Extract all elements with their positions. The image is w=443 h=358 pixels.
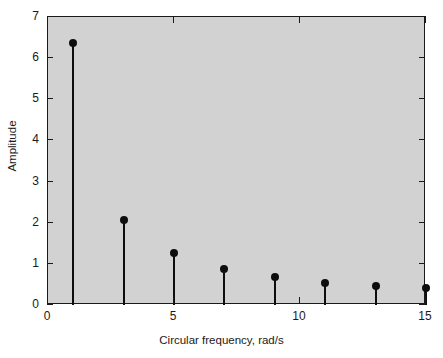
stem-line [274,277,276,305]
y-tick-label: 6 [9,51,39,63]
data-point-marker [69,39,77,47]
y-tick-mark [47,57,53,58]
stem-line [123,220,125,305]
x-tick-mark [173,297,174,304]
x-tick-label: 5 [170,310,177,322]
x-tick-mark [299,297,300,304]
y-tick-label: 1 [9,257,39,269]
y-tick-mark-right [419,139,425,140]
data-point-marker [321,279,329,287]
y-tick-mark [47,222,53,223]
stem-line [72,43,74,305]
plot-inner [48,17,424,303]
plot-area [47,16,425,304]
y-tick-mark [47,263,53,264]
y-tick-mark [47,181,53,182]
y-tick-mark-right [419,181,425,182]
y-tick-mark [47,139,53,140]
y-tick-mark-right [419,222,425,223]
x-axis-title: Circular frequency, rad/s [0,334,443,346]
y-tick-mark-right [419,57,425,58]
x-tick-label: 0 [44,310,51,322]
data-point-marker [220,265,228,273]
stem-line [223,269,225,305]
data-point-marker [170,249,178,257]
y-tick-mark [47,98,53,99]
y-tick-label: 2 [9,216,39,228]
x-tick-mark [47,297,48,304]
data-point-marker [422,284,430,292]
data-point-marker [372,282,380,290]
y-tick-label: 0 [9,298,39,310]
x-tick-label: 15 [418,310,431,322]
x-tick-mark-top [425,16,426,23]
x-tick-label: 10 [292,310,305,322]
y-axis-title: Amplitude [6,96,18,196]
y-tick-mark [47,304,53,305]
x-tick-mark-top [299,16,300,23]
y-tick-mark-right [419,98,425,99]
y-tick-mark-right [419,304,425,305]
y-tick-mark-right [419,263,425,264]
y-tick-label: 7 [9,10,39,22]
x-tick-mark [425,297,426,304]
stem-plot-figure: 01234567 051015 Circular frequency, rad/… [0,0,443,358]
data-point-marker [120,216,128,224]
x-tick-mark-top [173,16,174,23]
data-point-marker [271,273,279,281]
x-tick-mark-top [47,16,48,23]
